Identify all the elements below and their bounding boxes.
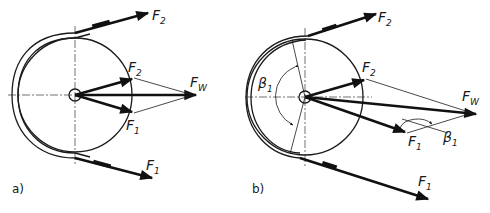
belt-tight-arrow (75, 158, 152, 178)
belt-marker-top (322, 24, 338, 32)
parallelogram-lower (134, 95, 193, 113)
caption-b: b) (252, 182, 264, 196)
wrap-angle-arc (275, 67, 295, 125)
belt-outer (12, 33, 75, 158)
label-wrap-angle: β1 (257, 75, 273, 94)
panel-b: F2 F1 F2 F1 FW β1 β1 b) (245, 9, 480, 199)
label-belt-f1: F1 (146, 157, 160, 176)
label-resultant-fw: FW (190, 74, 208, 93)
belt-force-diagram: F2 F1 F2 F1 FW a) F2 F1 (0, 0, 490, 213)
label-vector-f2: F2 (362, 59, 376, 78)
vector-f2 (75, 79, 132, 95)
label-belt-f2: F2 (378, 9, 392, 28)
label-angle-f1: β1 (442, 129, 458, 148)
wrap-radius-top (292, 40, 305, 97)
vector-f2 (305, 80, 364, 97)
label-vector-f1: F1 (408, 133, 422, 152)
parallelogram-upper (134, 78, 193, 95)
label-vector-f2: F2 (128, 59, 142, 78)
caption-a: a) (12, 182, 24, 196)
belt-slack-arrow (75, 13, 148, 33)
belt-marker-bottom (93, 160, 111, 169)
panel-a: F2 F1 F2 F1 FW a) (8, 7, 208, 196)
label-belt-f1: F1 (418, 173, 432, 192)
belt-inner (18, 38, 75, 153)
label-belt-f2: F2 (152, 7, 166, 26)
wrap-radius-bottom (290, 97, 305, 154)
label-vector-f1: F1 (126, 117, 140, 136)
vector-f1 (75, 95, 132, 112)
angle-reference-line (402, 119, 448, 133)
label-resultant-fw: FW (462, 88, 480, 107)
belt-slack-arrow (308, 14, 376, 36)
belt-tight-arrow (300, 158, 428, 199)
